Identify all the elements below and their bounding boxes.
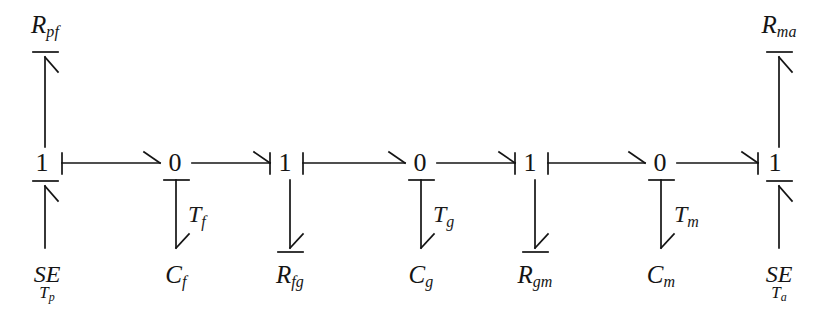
cf-sub: f (182, 273, 187, 290)
element-label-rma: Rma (761, 12, 796, 40)
bond-j3-rfg (278, 180, 303, 252)
bond-label-tg: Tg (433, 201, 454, 230)
bond-se-tp-j1 (33, 181, 58, 248)
tm-sub: m (687, 213, 699, 230)
bond-j2-cf (164, 180, 189, 248)
element-label-se-ta: SE Ta (766, 262, 793, 303)
rma-base: R (761, 11, 776, 38)
bond-j6-j7 (677, 152, 758, 174)
bond-j6-cm (649, 180, 674, 248)
bond-label-tf: Tf (188, 201, 206, 230)
se-ta-sub-main: T (771, 283, 780, 302)
bond-label-tm: Tm (674, 201, 699, 230)
bond-j4-cg (409, 180, 434, 248)
cg-sub: g (425, 273, 433, 290)
tg-sub: g (446, 213, 454, 230)
cf-base: C (165, 261, 182, 288)
bond-j1-rpf (33, 52, 58, 147)
tg-base: T (433, 201, 446, 227)
junction-1-right: 1 (769, 148, 782, 178)
element-label-rpf: Rpf (31, 12, 59, 40)
junction-0-metal: 0 (654, 148, 667, 178)
junction-1-left: 1 (36, 148, 49, 178)
tf-sub: f (201, 213, 205, 230)
tf-base: T (188, 201, 201, 227)
element-label-se-tp: SE Tp (34, 262, 61, 303)
se-tp-sub-second: p (49, 290, 55, 304)
cg-base: C (409, 261, 426, 288)
cm-base: C (647, 261, 664, 288)
junction-1-gm: 1 (524, 148, 537, 178)
rfg-base: R (276, 261, 291, 288)
junction-0-gas: 0 (414, 148, 427, 178)
element-label-cm: Cm (647, 262, 675, 290)
bond-j2-j3 (192, 152, 270, 174)
bond-se-ta-j7 (767, 181, 792, 248)
se-ta-sub-second: a (781, 290, 787, 304)
junction-1-fg: 1 (279, 148, 292, 178)
rgm-base: R (517, 261, 532, 288)
bond-graph-figure: 1 0 1 0 1 0 1 Rpf Rma SE Tp Cf Rfg Cg Rg… (0, 0, 828, 328)
element-label-rfg: Rfg (276, 262, 304, 290)
tm-base: T (674, 201, 687, 227)
element-label-cg: Cg (409, 262, 434, 290)
se-tp-sub-main: T (39, 283, 48, 302)
rgm-sub: gm (533, 273, 553, 290)
bond-j7-rma (767, 52, 792, 147)
element-label-rgm: Rgm (517, 262, 552, 290)
bond-j1-j2 (62, 152, 160, 174)
bond-j5-rgm (523, 180, 548, 252)
bond-j3-j4 (303, 152, 405, 174)
element-label-cf: Cf (165, 262, 186, 290)
junction-0-fluid: 0 (169, 148, 182, 178)
rma-sub: ma (777, 23, 797, 40)
cm-sub: m (663, 273, 675, 290)
rpf-base: R (31, 11, 46, 38)
rpf-sub: pf (46, 23, 59, 40)
bond-j5-j6 (548, 152, 645, 174)
bond-j4-j5 (437, 152, 515, 174)
rfg-sub: fg (291, 273, 304, 290)
